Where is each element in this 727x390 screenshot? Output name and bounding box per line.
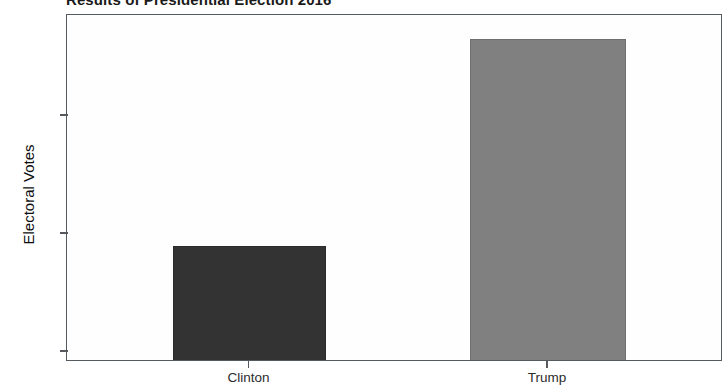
plot-area <box>66 14 722 361</box>
bar-chart: Results of Presidential Election 2016 El… <box>0 0 727 390</box>
y-axis-tick <box>60 232 68 234</box>
chart-title: Results of Presidential Election 2016 <box>66 0 666 8</box>
y-axis-title: Electoral Votes <box>20 105 37 285</box>
x-axis-label-trump: Trump <box>472 370 622 385</box>
y-axis-tick <box>60 350 68 352</box>
x-axis-label-clinton: Clinton <box>174 370 324 385</box>
plot-inner <box>67 15 721 360</box>
x-axis-tick <box>248 361 250 368</box>
bar-clinton[interactable] <box>173 246 326 360</box>
y-axis-tick <box>60 114 68 116</box>
bar-trump[interactable] <box>470 39 626 360</box>
x-axis-tick <box>546 361 548 368</box>
